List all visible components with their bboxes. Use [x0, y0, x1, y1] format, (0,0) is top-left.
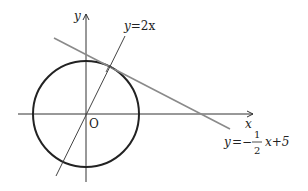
tangent-line-label: y =− 1 2 x+5 [223, 129, 289, 156]
coordinate-diagram: y x O y=2x y =− 1 2 x+5 [0, 0, 308, 191]
svg-text:2: 2 [254, 145, 260, 156]
svg-text:1: 1 [254, 129, 260, 140]
svg-text:x+5: x+5 [265, 135, 289, 149]
svg-text:y: y [223, 135, 231, 149]
origin-label: O [89, 117, 99, 131]
x-axis-label: x [245, 117, 252, 131]
y-axis-label: y [73, 9, 81, 23]
radius-line-label: y=2x [123, 19, 155, 33]
svg-text:=−: =− [232, 135, 252, 149]
tangent-line [54, 38, 230, 129]
